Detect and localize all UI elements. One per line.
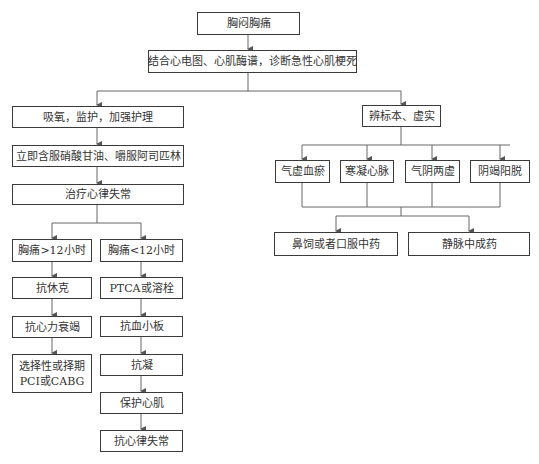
node-yin-exhaustion-yang-collapse: 阴竭阳脱 xyxy=(470,160,530,183)
node-elective-line2: PCI或CABG xyxy=(20,374,85,389)
node-pain-under-12h: 胸痛<12小时 xyxy=(100,239,183,262)
node-differentiate-syndrome: 辨标本、虚实 xyxy=(362,105,441,127)
node-pain-over-12h: 胸痛>12小时 xyxy=(12,239,92,262)
node-protect-myocardium: 保护心肌 xyxy=(100,392,183,414)
node-qi-deficiency-blood-stasis: 气虚血瘀 xyxy=(275,160,330,183)
node-elective-line1: 选择性或择期 xyxy=(19,359,85,374)
node-chest-pain: 胸闷胸痛 xyxy=(197,12,300,35)
node-anticoagulation: 抗凝 xyxy=(100,354,183,376)
node-anti-shock: 抗休克 xyxy=(12,277,92,299)
node-antiarrhythmia: 抗心律失常 xyxy=(100,430,183,452)
node-cold-congealing: 寒凝心脉 xyxy=(340,160,394,183)
node-antiplatelet: 抗血小板 xyxy=(100,316,183,337)
node-iv-patent-medicine: 静脉中成药 xyxy=(408,232,530,256)
node-elective-pci-cabg: 选择性或择期 PCI或CABG xyxy=(12,354,92,393)
node-diagnose-ami: 结合心电图、心肌酶谱，诊断急性心肌梗死 xyxy=(148,50,357,73)
node-nitroglycerin-aspirin: 立即含服硝酸甘油、嚼服阿司匹林 xyxy=(12,145,184,167)
node-qi-yin-deficiency: 气阴两虚 xyxy=(405,160,460,183)
node-ptca-thrombolysis: PTCA或溶栓 xyxy=(100,277,183,299)
node-treat-arrhythmia: 治疗心律失常 xyxy=(12,184,184,205)
node-nasal-oral-tcm: 鼻饲或者口服中药 xyxy=(274,232,398,256)
node-anti-heart-failure: 抗心力衰竭 xyxy=(12,316,92,338)
node-oxygen-monitor: 吸氧，监护，加强护理 xyxy=(12,106,184,128)
